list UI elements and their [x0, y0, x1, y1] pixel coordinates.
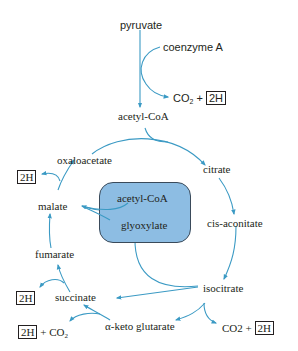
co2-text: CO	[173, 92, 190, 104]
label-succinate: succinate	[55, 292, 96, 303]
two-h-badge: 2H	[255, 321, 274, 335]
label-pyruvate: pyruvate	[120, 20, 162, 31]
label-coenzyme-a: coenzyme A	[163, 42, 223, 53]
two-h-badge: 2H	[206, 91, 226, 105]
label-malate: malate	[38, 201, 67, 212]
two-h-badge: 2H	[18, 325, 37, 339]
label-oxaloacetate: oxaloacetate	[57, 155, 112, 166]
plus-text: +	[196, 92, 202, 104]
label-box-acetyl-coa: acetyl-CoA	[117, 193, 168, 204]
byproduct-malate-2h: 2H	[17, 170, 36, 184]
shunt-overlay-arrows	[0, 0, 298, 351]
label-cis-aconitate: cis-aconitate	[207, 218, 263, 229]
two-h-badge: 2H	[17, 170, 36, 184]
glyoxylate-cycle-diagram: pyruvate coenzyme A CO2 + 2H acetyl-CoA …	[0, 0, 298, 351]
label-glyoxylate: glyoxylate	[121, 220, 167, 231]
label-entry-co2-2h: CO2 + 2H	[173, 91, 226, 105]
label-fumarate: fumarate	[35, 249, 74, 260]
two-h-badge: 2H	[16, 291, 35, 305]
label-citrate: citrate	[203, 164, 230, 175]
byproduct-succinate-2h: 2H	[16, 291, 35, 305]
label-acetyl-coa: acetyl-CoA	[118, 111, 169, 122]
byproduct-akg-2h-co2: 2H + CO2	[18, 325, 68, 339]
label-isocitrate: isocitrate	[203, 283, 243, 294]
byproduct-isocitrate-co2-2h: CO2 + 2H	[222, 321, 274, 335]
label-alpha-ketoglutarate: α-keto glutarate	[105, 321, 175, 332]
